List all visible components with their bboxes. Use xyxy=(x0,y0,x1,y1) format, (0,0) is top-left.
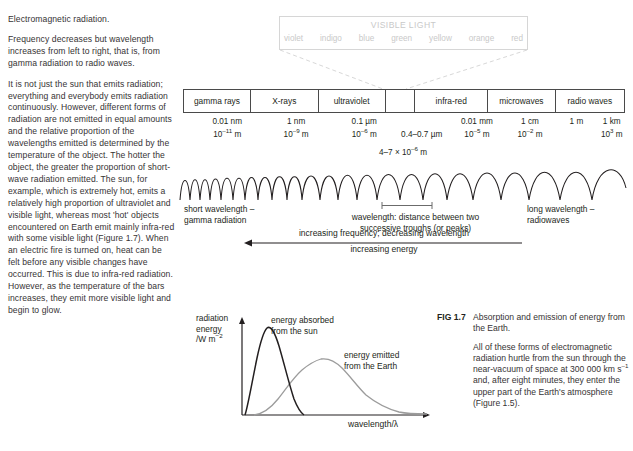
short-wavelength-line-2: gamma radiation xyxy=(184,215,254,226)
figure-number-label: FIG 1.7 xyxy=(437,312,466,323)
color-yellow: yellow xyxy=(429,34,452,43)
scale-value-1-cm: 1 cm xyxy=(521,117,539,126)
scale-exp-10-minus-9: 10–9 m xyxy=(284,130,309,139)
chart-annotation-sun: energy absorbed from the sun xyxy=(271,315,334,336)
spectrum-band-infra-red: infra-red xyxy=(415,90,488,112)
figure-caption-title: Absorption and emission of energy from t… xyxy=(473,312,629,335)
spectrum-band-radio-waves: radio waves xyxy=(556,90,624,112)
spectrum-band-x-rays: X-rays xyxy=(251,90,319,112)
arrow-label-energy: increasing energy xyxy=(244,244,524,254)
color-green: green xyxy=(391,34,412,43)
scale-value-0-1-um: 0.1 µm xyxy=(352,117,377,126)
wavelength-definition-line-1: wavelength: distance between two xyxy=(293,212,538,223)
chart-series-sun xyxy=(245,327,304,415)
visible-wavelength-label: 4–7 × 10–6 m xyxy=(379,148,427,157)
spectrum-band-visible xyxy=(386,90,416,112)
scale-exp-10-minus-2: 10–2 m xyxy=(517,130,542,139)
radiation-energy-chart: radiation energy /W m−2 wavelength/λ ene… xyxy=(196,310,436,435)
short-wavelength-line-1: short wavelength – xyxy=(184,204,254,215)
figure-caption-body: All of these forms of electromagnetic ra… xyxy=(473,342,629,410)
chart-x-axis-arrowhead xyxy=(423,412,430,418)
chart-y-axis-label-line-3: /W m−2 xyxy=(196,334,228,345)
spectrum-band-microwaves: microwaves xyxy=(488,90,556,112)
chart-series-earth xyxy=(254,359,427,415)
scale-visible-range: 0.4–0.7 µm xyxy=(401,130,442,139)
chart-annotation-earth: energy emitted from the Earth xyxy=(344,350,399,371)
body-paragraph-3: It is not just the sun that emits radiat… xyxy=(8,79,176,317)
chart-annotation-earth-line-2: from the Earth xyxy=(344,361,399,372)
chart-y-axis-label-line-2: energy xyxy=(196,324,228,335)
visible-light-color-list: violet indigo blue green yellow orange r… xyxy=(284,34,523,43)
color-indigo: indigo xyxy=(320,34,342,43)
color-red: red xyxy=(511,34,523,43)
spectrum-scale-row-primary: 0.01 nm 1 nm 0.1 µm 0.01 mm 1 cm 1 m 1 k… xyxy=(183,117,625,128)
visible-light-title: VISIBLE LIGHT xyxy=(280,20,527,30)
scale-exp-10-minus-11: 10–11 m xyxy=(213,130,241,139)
scale-value-1-m: 1 m xyxy=(570,117,584,126)
body-text-column: Electromagnetic radiation. Frequency dec… xyxy=(8,14,176,325)
spectrum-band-gamma-rays: gamma rays xyxy=(184,90,251,112)
chart-y-axis-label-line-1: radiation xyxy=(196,313,228,324)
scale-exp-10-minus-6: 10–6 m xyxy=(352,130,377,139)
color-violet: violet xyxy=(284,34,303,43)
chart-annotation-earth-line-1: energy emitted xyxy=(344,350,399,361)
color-orange: orange xyxy=(469,34,495,43)
spectrum-band-ultraviolet: ultraviolet xyxy=(319,90,386,112)
wavelength-measure-bracket xyxy=(380,201,450,210)
figure-caption: FIG 1.7 Absorption and emission of energ… xyxy=(437,312,629,409)
chart-y-axis-arrowhead xyxy=(239,317,245,324)
body-paragraph-2: Frequency decreases but wavelength incre… xyxy=(8,34,176,70)
spectrum-scale-row-exponent: 10–11 m 10–9 m 10–6 m 0.4–0.7 µm 10–5 m … xyxy=(183,130,625,141)
figure-page: Electromagnetic radiation. Frequency dec… xyxy=(0,0,633,451)
short-wavelength-label: short wavelength – gamma radiation xyxy=(184,204,254,225)
electromagnetic-spectrum-box: gamma rays X-rays ultraviolet infra-red … xyxy=(183,89,625,113)
scale-exp-10-minus-5: 10–5 m xyxy=(464,130,489,139)
body-paragraph-1: Electromagnetic radiation. xyxy=(8,14,176,26)
chart-y-axis-label: radiation energy /W m−2 xyxy=(196,313,228,345)
scale-value-0-01-nm: 0.01 nm xyxy=(212,117,242,126)
wavelength-wave-diagram xyxy=(176,160,628,206)
arrow-label-frequency-wavelength: increasing frequency; decreasing wavelen… xyxy=(244,228,524,238)
visible-light-box: VISIBLE LIGHT violet indigo blue green y… xyxy=(279,16,528,50)
scale-value-1-km: 1 km xyxy=(603,117,621,126)
chart-annotation-sun-line-2: from the sun xyxy=(271,326,334,337)
chart-x-axis-label: wavelength/λ xyxy=(348,419,398,429)
chart-annotation-sun-line-1: energy absorbed xyxy=(271,315,334,326)
color-blue: blue xyxy=(359,34,374,43)
scale-value-0-01-mm: 0.01 mm xyxy=(461,117,493,126)
scale-exp-10-3: 103 m xyxy=(601,130,623,139)
scale-value-1-nm: 1 nm xyxy=(287,117,305,126)
